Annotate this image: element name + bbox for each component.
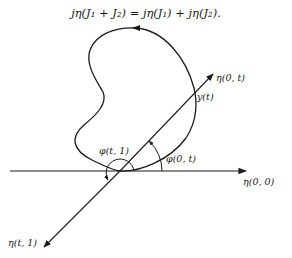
label-phi-0-t: φ(0, t) xyxy=(166,153,196,164)
label-y-t: y(t) xyxy=(196,91,214,102)
equation-title: jη(J₁ + J₂) = jη(J₁) + jη(J₂). xyxy=(68,6,221,20)
curve-direction-arrow-icon xyxy=(132,25,140,31)
label-phi-t-1: φ(t, 1) xyxy=(99,145,129,156)
angle-arc-phi-0-t xyxy=(149,141,162,171)
label-eta-0-0: η(0, 0) xyxy=(243,176,275,187)
angle-arc-phi-t-1 xyxy=(106,159,134,180)
diagram-canvas: jη(J₁ + J₂) = jη(J₁) + jη(J₂). η(0, t) y… xyxy=(0,0,292,258)
closed-curve xyxy=(75,25,196,171)
label-eta-0-t: η(0, t) xyxy=(216,72,245,83)
ray-eta-t-1 xyxy=(44,171,120,247)
label-eta-t-1: η(t, 1) xyxy=(8,237,37,248)
